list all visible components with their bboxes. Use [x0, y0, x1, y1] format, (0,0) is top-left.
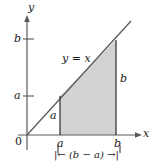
x-axis-label: x: [143, 128, 149, 139]
left-height-label: a: [50, 110, 57, 121]
right-height-label: b: [120, 73, 127, 84]
width-bracket-label: |← (b − a) →|: [54, 150, 119, 160]
line-equation-label: y = x: [62, 53, 91, 64]
y-tick-label-a: a: [14, 90, 21, 101]
x-tick-label-a: a: [57, 138, 64, 149]
y-tick-label-b: b: [14, 33, 21, 44]
figure-container: y x 0 b a a b y = x a b |← (b − a) →|: [0, 0, 154, 166]
y-axis-label: y: [28, 2, 34, 13]
x-tick-label-b: b: [114, 138, 121, 149]
y-axis-arrowhead: [24, 15, 30, 22]
x-axis-arrowhead: [135, 132, 142, 138]
origin-label: 0: [15, 136, 22, 147]
figure-graphic: [0, 0, 154, 166]
